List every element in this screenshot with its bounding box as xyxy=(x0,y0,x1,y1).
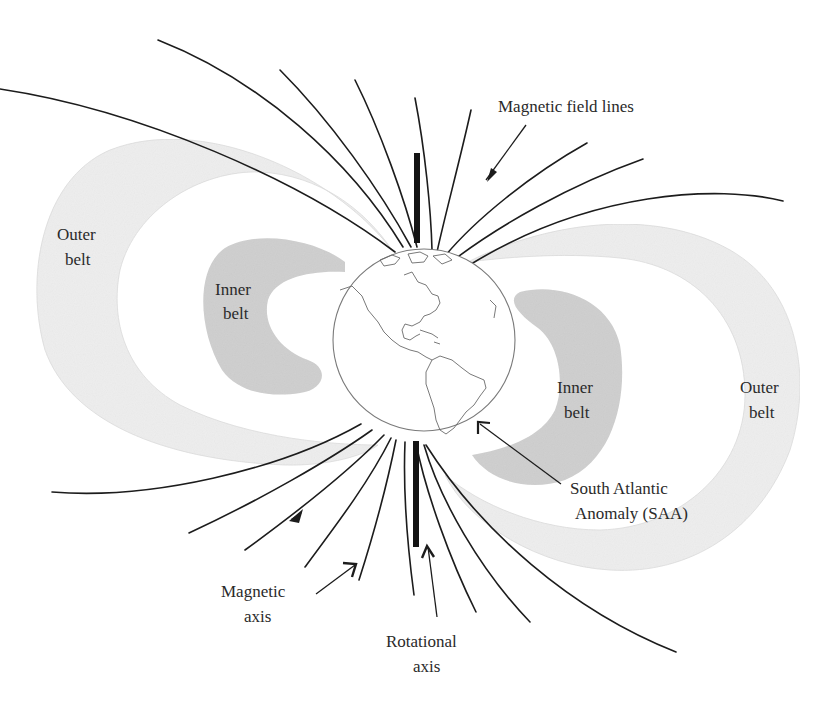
rotational-axis-label-line1: Rotational xyxy=(386,632,457,651)
inner-belt-left-label-line2: belt xyxy=(223,304,249,323)
saa-label-line2: Anomaly (SAA) xyxy=(575,504,688,523)
magnetic-axis-label-line1: Magnetic xyxy=(221,582,286,601)
inner-belt-right-label-line1: Inner xyxy=(557,378,593,397)
outer-belt-right-label-line2: belt xyxy=(749,403,775,422)
saa-arrowhead-icon xyxy=(478,422,490,434)
outer-belt-left-label-line1: Outer xyxy=(57,225,96,244)
label-magnetic-field-lines: Magnetic field lines xyxy=(486,97,634,180)
label-rotational-axis: Rotational axis xyxy=(386,546,457,676)
radiation-belts-diagram: Magnetic field lines Outer belt Inner be… xyxy=(0,0,833,711)
earth-globe xyxy=(333,249,515,434)
magnetic-axis-label-line2: axis xyxy=(244,607,271,626)
field-lines-label: Magnetic field lines xyxy=(498,97,634,116)
label-magnetic-axis: Magnetic axis xyxy=(221,563,356,626)
rotational-axis-label-line2: axis xyxy=(413,657,440,676)
outer-belt-left-label-line2: belt xyxy=(65,250,91,269)
outer-belt-right-label-line1: Outer xyxy=(740,378,779,397)
field-line-arrow-north xyxy=(487,168,497,182)
inner-belt-left-label-line1: Inner xyxy=(215,280,251,299)
inner-belt-right-label-line2: belt xyxy=(564,403,590,422)
saa-label-line1: South Atlantic xyxy=(570,479,668,498)
